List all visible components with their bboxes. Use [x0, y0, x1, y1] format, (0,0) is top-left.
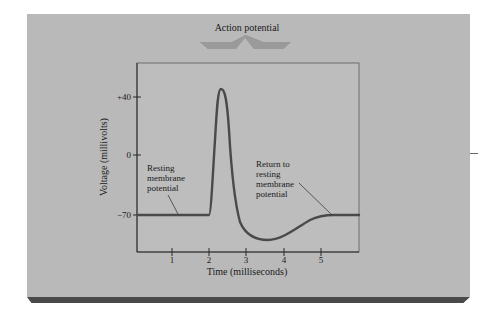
svg-text:Resting: Resting [147, 163, 175, 173]
x-tick-5: 5 [319, 255, 324, 265]
action-potential-chart: Action potential +40 0 −70 1 2 3 4 5 Tim… [0, 0, 496, 317]
x-tick-2: 2 [207, 255, 212, 265]
y-axis-label: Voltage (millivolts) [98, 118, 110, 196]
svg-text:resting: resting [256, 169, 281, 179]
svg-text:Return to: Return to [256, 159, 290, 169]
svg-text:potential: potential [147, 183, 179, 193]
chart-title: Action potential [215, 22, 280, 33]
svg-text:membrane: membrane [147, 173, 185, 183]
svg-text:potential: potential [256, 189, 288, 199]
x-tick-3: 3 [244, 255, 249, 265]
svg-text:membrane: membrane [256, 179, 294, 189]
x-axis-label: Time (milliseconds) [207, 266, 287, 278]
y-tick-zero: 0 [127, 150, 132, 160]
x-tick-1: 1 [170, 255, 175, 265]
y-tick-minus70: −70 [117, 210, 132, 220]
y-tick-plus40: +40 [117, 92, 132, 102]
x-tick-4: 4 [282, 255, 287, 265]
plot-area [137, 63, 359, 252]
